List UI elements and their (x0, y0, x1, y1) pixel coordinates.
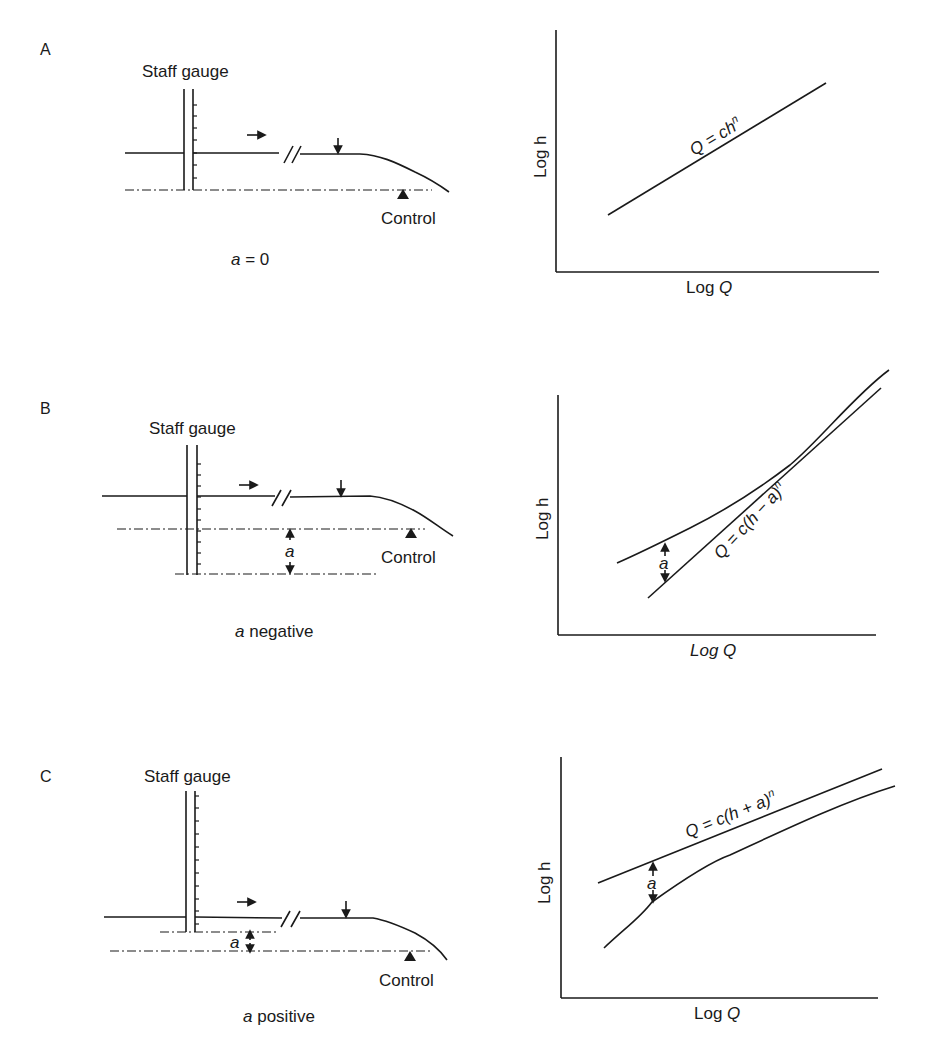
x-axis-label: Log Q (694, 1004, 740, 1023)
water-surface-upstream (104, 917, 282, 918)
caption: a = 0 (231, 250, 269, 269)
y-axis-label: Log h (533, 497, 552, 540)
panel-b-letter: B (40, 400, 51, 417)
offset-label: a (230, 933, 239, 952)
x-axis-label: Log Q (686, 278, 732, 297)
panel-a-letter: A (40, 41, 51, 58)
panel-c: C Staff gauge (40, 757, 895, 1026)
panel-b: B Staff gauge (40, 370, 889, 660)
panel-b-channel-diagram: Staff gauge a (102, 419, 453, 641)
x-axis-label: Log Q (690, 641, 736, 660)
equation-label: Q = chn (685, 112, 744, 159)
offset-label: a (285, 542, 294, 561)
staff-gauge-label: Staff gauge (144, 767, 231, 786)
rating-curve-line (598, 769, 882, 883)
panel-a-rating-curve-chart: Log h Log Q Q = chn (531, 30, 879, 297)
caption: a negative (235, 622, 313, 641)
y-axis-label: Log h (535, 861, 554, 904)
control-triangle-icon (404, 951, 416, 961)
panel-b-rating-curve-chart: Log h Log Q a Q = c(h − a)n (533, 370, 889, 660)
equation-label: Q = c(h − a)n (709, 478, 790, 563)
staff-gauge-label: Staff gauge (149, 419, 236, 438)
staff-gauge-label: Staff gauge (142, 62, 229, 81)
offset-label: a (659, 554, 668, 573)
panel-a-channel-diagram: Staff gauge Control a = 0 (125, 62, 449, 269)
panel-c-letter: C (40, 768, 52, 785)
water-surface-downstream (300, 154, 449, 192)
control-label: Control (379, 971, 434, 990)
break-mark-icon (272, 490, 291, 506)
equation-label: Q = c(h + a)n (682, 786, 780, 842)
control-label: Control (381, 548, 436, 567)
panel-c-rating-curve-chart: Log h Log Q a Q = c(h + a)n (535, 757, 895, 1023)
water-surface-downstream (290, 496, 453, 536)
observed-curve (617, 370, 889, 563)
offset-label: a (647, 874, 656, 893)
y-axis-label: Log h (531, 135, 550, 178)
caption: a positive (243, 1007, 315, 1026)
rating-curve-line (608, 83, 826, 215)
panel-a: A Staff gauge Control (40, 30, 879, 297)
panel-c-channel-diagram: Staff gauge (104, 767, 447, 1026)
water-surface-downstream (300, 918, 447, 960)
break-mark-icon (284, 146, 301, 163)
break-mark-icon (281, 911, 300, 927)
control-label: Control (381, 209, 436, 228)
